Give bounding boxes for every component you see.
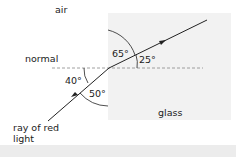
angle-arc-40	[84, 68, 88, 83]
angle-label-40: 40°	[65, 75, 82, 86]
angle-label-25: 25°	[139, 54, 156, 65]
glass-block	[108, 13, 231, 120]
air-label: air	[55, 4, 67, 15]
ray-label-line1: ray of red	[13, 122, 59, 133]
refraction-diagram: air glass normal ray of red light 40° 50…	[0, 0, 236, 157]
ray-label-line2: light	[13, 133, 34, 144]
angle-label-65: 65°	[112, 48, 129, 59]
angle-label-50: 50°	[89, 88, 106, 99]
bottom-band	[0, 145, 236, 157]
normal-label: normal	[25, 53, 58, 64]
glass-label: glass	[158, 107, 182, 118]
